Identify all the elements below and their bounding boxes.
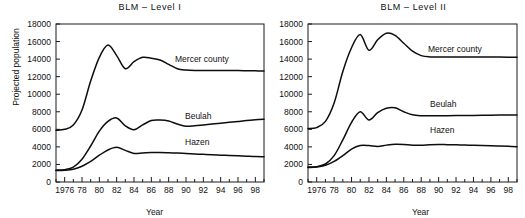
x-tick-label: 88 xyxy=(416,185,426,195)
series-label-hazen: Hazen xyxy=(185,137,210,147)
chart-panel-level-2: BLM – Level II Year 02000400060008000100… xyxy=(262,0,525,218)
y-tick-label: 18000 xyxy=(27,19,51,29)
plot-area-left: 0200040006000800010000120001400016000180… xyxy=(0,0,266,218)
x-tick-label: 84 xyxy=(129,185,139,195)
x-tick-label: 78 xyxy=(329,185,339,195)
figure-root: BLM – Level I Projected population Year … xyxy=(0,0,525,218)
y-tick-label: 16000 xyxy=(27,37,51,47)
y-tick-label: 0 xyxy=(298,177,303,187)
series-label-beulah: Beulah xyxy=(185,111,212,121)
y-tick-label: 12000 xyxy=(279,72,303,82)
x-tick-label: 86 xyxy=(147,185,157,195)
x-tick-label: 98 xyxy=(504,185,514,195)
x-tick-label: 88 xyxy=(164,185,174,195)
x-tick-label: 94 xyxy=(216,185,226,195)
x-tick-label: 1976 xyxy=(307,185,326,195)
x-tick-label: 98 xyxy=(251,185,261,195)
x-tick-label: 94 xyxy=(469,185,479,195)
y-tick-label: 18000 xyxy=(279,19,303,29)
y-tick-label: 16000 xyxy=(279,37,303,47)
x-tick-label: 96 xyxy=(233,185,243,195)
y-tick-label: 12000 xyxy=(27,72,51,82)
y-tick-label: 10000 xyxy=(279,89,303,99)
y-tick-label: 10000 xyxy=(27,89,51,99)
curve-beulah xyxy=(56,118,264,170)
y-tick-label: 4000 xyxy=(284,142,303,152)
x-tick-label: 90 xyxy=(181,185,191,195)
x-tick-label: 86 xyxy=(399,185,409,195)
x-tick-label: 1976 xyxy=(55,185,74,195)
y-tick-label: 2000 xyxy=(32,159,51,169)
x-tick-label: 92 xyxy=(199,185,209,195)
x-tick-label: 80 xyxy=(95,185,105,195)
y-tick-label: 0 xyxy=(46,177,51,187)
x-tick-label: 84 xyxy=(382,185,392,195)
plot-area-right: 0200040006000800010000120001400016000180… xyxy=(262,0,525,218)
y-tick-label: 4000 xyxy=(32,142,51,152)
x-tick-label: 78 xyxy=(77,185,87,195)
y-tick-label: 6000 xyxy=(32,124,51,134)
series-label-mercer: Mercer county xyxy=(428,44,483,54)
y-tick-label: 8000 xyxy=(32,107,51,117)
curve-mercer xyxy=(56,45,264,130)
series-label-hazen: Hazen xyxy=(430,125,455,135)
y-tick-label: 14000 xyxy=(279,54,303,64)
x-tick-label: 96 xyxy=(486,185,496,195)
x-tick-label: 80 xyxy=(347,185,357,195)
series-label-mercer: Mercer county xyxy=(175,54,230,64)
x-tick-label: 90 xyxy=(434,185,444,195)
x-tick-label: 82 xyxy=(112,185,122,195)
y-tick-label: 14000 xyxy=(27,54,51,64)
axis-frame xyxy=(56,24,264,182)
x-tick-label: 82 xyxy=(364,185,374,195)
series-label-beulah: Beulah xyxy=(430,99,457,109)
y-tick-label: 6000 xyxy=(284,124,303,134)
y-tick-label: 8000 xyxy=(284,107,303,117)
y-tick-label: 2000 xyxy=(284,159,303,169)
x-tick-label: 92 xyxy=(451,185,461,195)
chart-panel-level-1: BLM – Level I Projected population Year … xyxy=(0,0,266,218)
